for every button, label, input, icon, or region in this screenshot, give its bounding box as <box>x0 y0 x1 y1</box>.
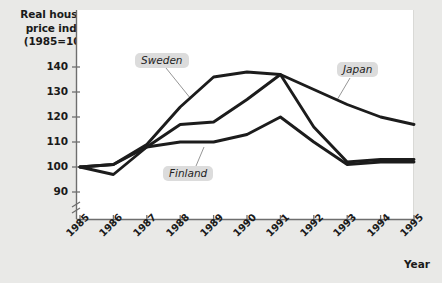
data-series <box>80 72 414 175</box>
y-axis-tick-label: 90 <box>36 185 68 197</box>
y-axis-tick-label: 110 <box>36 135 68 147</box>
series-label-finland: Finland <box>163 166 213 181</box>
y-axis-tick-label: 120 <box>36 110 68 122</box>
axes <box>72 10 413 220</box>
label-leader-lines <box>166 68 350 166</box>
chart-figure: Real housing price index (1985=100) 9010… <box>0 0 442 283</box>
y-axis-tick-label: 100 <box>36 160 68 172</box>
leader-line-finland <box>196 147 204 166</box>
series-label-sweden: Sweden <box>135 53 189 68</box>
leader-line-sweden <box>166 68 191 99</box>
y-axis-tick-label: 130 <box>36 85 68 97</box>
x-axis-title: Year <box>404 258 430 270</box>
y-axis-tick-label: 140 <box>36 60 68 72</box>
series-label-japan: Japan <box>337 62 378 77</box>
leader-line-japan <box>337 78 350 100</box>
series-line-sweden <box>80 72 414 167</box>
